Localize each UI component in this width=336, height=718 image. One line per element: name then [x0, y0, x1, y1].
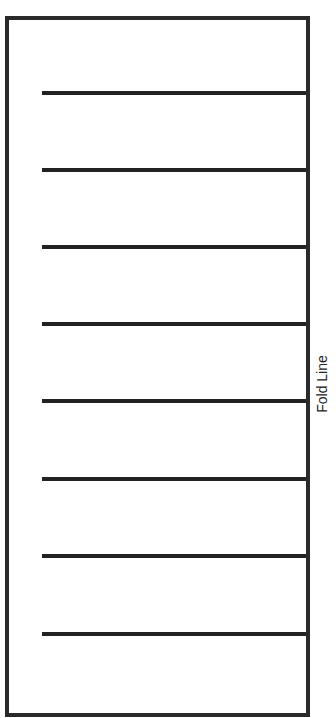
fold-line-label: Fold Line: [312, 344, 332, 424]
ruled-line: [42, 554, 306, 558]
ruled-line: [42, 245, 306, 249]
writing-panel-frame: [5, 16, 310, 717]
ruled-line: [42, 399, 306, 403]
ruled-line: [42, 477, 306, 481]
ruled-line: [42, 322, 306, 326]
ruled-line: [42, 91, 306, 95]
ruled-line: [42, 632, 306, 636]
ruled-line: [42, 168, 306, 172]
fold-line-text: Fold Line: [314, 355, 330, 413]
